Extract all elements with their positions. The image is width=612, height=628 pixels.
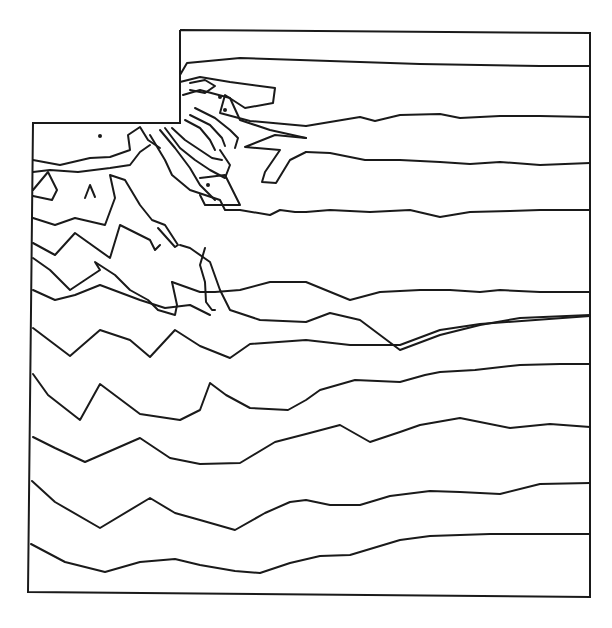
point-marker <box>98 134 102 138</box>
point-marker <box>206 183 210 187</box>
point-marker <box>218 95 222 99</box>
contour-plot <box>0 0 612 628</box>
point-marker <box>223 108 227 112</box>
